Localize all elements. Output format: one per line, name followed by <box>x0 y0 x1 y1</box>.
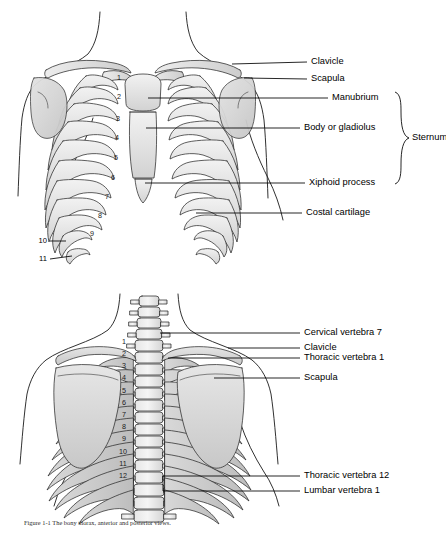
post-rib-number-10: 10 <box>119 447 127 456</box>
posterior-diagram: 1 2 3 4 5 6 7 8 9 10 11 12 Cervical vert… <box>0 280 446 530</box>
rib-number-10: 10 <box>39 236 47 245</box>
rib-number-9: 9 <box>90 229 94 238</box>
post-rib-number-2: 2 <box>122 349 126 358</box>
post-rib-number-4: 4 <box>122 373 126 382</box>
label-clavicle-posterior: Clavicle <box>304 342 337 352</box>
label-lumbar-vertebra-1: Lumbar vertebra 1 <box>304 485 380 495</box>
sternum-brace <box>395 92 409 184</box>
label-clavicle: Clavicle <box>311 56 344 66</box>
anterior-diagram: 1 2 3 4 5 6 7 8 9 10 11 Clavicle Scapula… <box>0 0 446 280</box>
figure-posterior-thorax: 1 2 3 4 5 6 7 8 9 10 11 12 Cervical vert… <box>0 280 446 530</box>
figure-anterior-thorax: 1 2 3 4 5 6 7 8 9 10 11 Clavicle Scapula… <box>0 0 446 280</box>
rib-number-7: 7 <box>105 192 109 201</box>
sternum-group <box>125 74 161 203</box>
leader-scapula <box>244 78 307 79</box>
label-manubrium: Manubrium <box>332 92 379 102</box>
rib-number-6: 6 <box>111 173 115 182</box>
label-thoracic-vertebra-12: Thoracic vertebra 12 <box>304 470 389 480</box>
cervical-vertebrae <box>127 296 171 351</box>
label-group-anterior: Clavicle Scapula Manubrium Body or gladi… <box>304 56 379 217</box>
label-thoracic-vertebra-1: Thoracic vertebra 1 <box>304 352 384 362</box>
sternum-brace-group: Sternum <box>395 92 446 184</box>
label-sternum: Sternum <box>412 132 446 142</box>
manubrium-shape <box>125 74 161 111</box>
post-rib-number-6: 6 <box>122 398 126 407</box>
post-rib-number-5: 5 <box>122 386 126 395</box>
label-xiphoid-process: Xiphoid process <box>309 177 376 187</box>
rib-number-8: 8 <box>98 211 102 220</box>
post-rib-number-12: 12 <box>119 471 127 480</box>
post-rib-number-1: 1 <box>122 337 126 346</box>
post-rib-number-7: 7 <box>122 410 126 419</box>
label-body-gladiolus: Body or gladiolus <box>304 122 376 132</box>
post-rib-number-8: 8 <box>122 422 126 431</box>
figure-caption: Figure 1-1 The bony thorax, anterior and… <box>24 519 434 535</box>
rib-number-3: 3 <box>116 114 120 123</box>
rib-number-4: 4 <box>115 133 119 142</box>
sternal-body-shape <box>129 112 156 178</box>
post-rib-number-11: 11 <box>119 459 126 468</box>
rib-number-5: 5 <box>114 153 118 162</box>
label-cervical-vertebra-7: Cervical vertebra 7 <box>304 327 382 337</box>
rib-number-2: 2 <box>117 92 121 101</box>
label-group-posterior: Cervical vertebra 7 Clavicle Thoracic ve… <box>304 327 389 495</box>
leader-clavicle <box>232 62 307 64</box>
rib-number-1: 1 <box>117 73 121 82</box>
post-rib-number-3: 3 <box>122 361 126 370</box>
label-scapula: Scapula <box>311 73 345 83</box>
post-rib-number-9: 9 <box>122 434 126 443</box>
label-costal-cartilage: Costal cartilage <box>306 207 370 217</box>
rib-number-11: 11 <box>39 254 47 263</box>
label-scapula-posterior: Scapula <box>304 372 338 382</box>
